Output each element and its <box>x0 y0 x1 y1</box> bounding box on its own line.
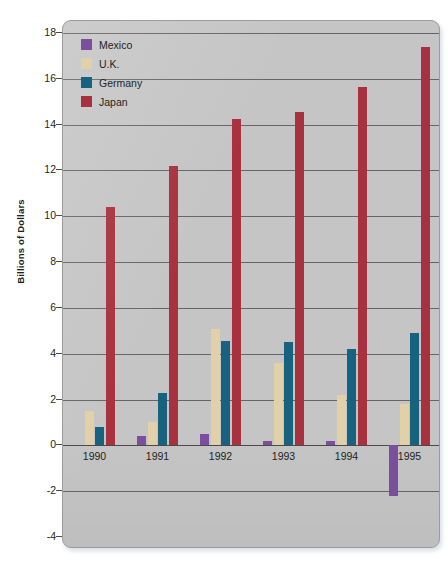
bar-japan-1994 <box>358 87 367 446</box>
bar-mexico-1994 <box>326 441 335 446</box>
x-tick-label-1993: 1993 <box>272 450 295 462</box>
legend-swatch-icon <box>81 39 92 50</box>
gridline-0 <box>63 445 439 446</box>
y-tick-label: 8 <box>24 255 56 267</box>
bar-uk-1993 <box>274 363 283 445</box>
gridline-4 <box>63 354 439 355</box>
bar-uk-1990 <box>85 411 94 445</box>
y-tick-label: 4 <box>24 347 56 359</box>
y-tick-label: 12 <box>24 163 56 175</box>
bar-uk-1995 <box>400 404 409 445</box>
legend-item-mexico: Mexico <box>81 35 142 54</box>
x-tick-label-1991: 1991 <box>146 450 169 462</box>
x-tick-label-1994: 1994 <box>335 450 358 462</box>
bar-japan-1990 <box>106 207 115 445</box>
bar-mexico-1991 <box>137 436 146 445</box>
y-tick-label: 14 <box>24 118 56 130</box>
gridline--2 <box>63 491 439 492</box>
y-tick-label: 16 <box>24 72 56 84</box>
bar-mexico-1993 <box>263 441 272 446</box>
x-tick-label-1990: 1990 <box>83 450 106 462</box>
legend-item-japan: Japan <box>81 92 142 111</box>
gridline-12 <box>63 170 439 171</box>
bar-germany-1993 <box>284 342 293 445</box>
bar-germany-1990 <box>95 427 104 445</box>
bar-uk-1994 <box>337 395 346 445</box>
legend-swatch-icon <box>81 58 92 69</box>
gridline-18 <box>63 33 439 34</box>
bar-japan-1995 <box>421 47 430 446</box>
y-tick-label: 2 <box>24 393 56 405</box>
x-tick-label-1995: 1995 <box>398 450 421 462</box>
y-tick-label: -2 <box>24 484 56 496</box>
bar-germany-1994 <box>347 349 356 445</box>
bar-uk-1992 <box>211 329 220 446</box>
plot-area: 199019911992199319941995 MexicoU.K.Germa… <box>62 20 440 548</box>
bar-germany-1995 <box>410 333 419 445</box>
bar-japan-1991 <box>169 166 178 445</box>
y-tick-label: -4 <box>24 530 56 542</box>
gridline-8 <box>63 262 439 263</box>
legend-swatch-icon <box>81 77 92 88</box>
legend: MexicoU.K.GermanyJapan <box>81 35 142 111</box>
y-tick-label: 0 <box>24 438 56 450</box>
gridline-6 <box>63 308 439 309</box>
bar-germany-1992 <box>221 341 230 445</box>
legend-item-germany: Germany <box>81 73 142 92</box>
legend-label: Mexico <box>99 39 132 51</box>
gridline-10 <box>63 216 439 217</box>
gridline-14 <box>63 125 439 126</box>
bar-chart: Billions of Dollars 181614121086420-2-4 … <box>0 0 448 581</box>
y-tick-label: 10 <box>24 209 56 221</box>
bar-germany-1991 <box>158 393 167 446</box>
legend-item-uk: U.K. <box>81 54 142 73</box>
legend-swatch-icon <box>81 96 92 107</box>
x-tick-label-1992: 1992 <box>209 450 232 462</box>
plot-inner: 199019911992199319941995 MexicoU.K.Germa… <box>63 21 439 547</box>
y-tick-label: 6 <box>24 301 56 313</box>
y-axis-title: Billions of Dollars <box>15 182 26 302</box>
legend-label: U.K. <box>99 58 119 70</box>
bar-japan-1992 <box>232 119 241 445</box>
bar-japan-1993 <box>295 112 304 445</box>
y-tick-label: 18 <box>24 26 56 38</box>
legend-label: Japan <box>99 96 128 108</box>
legend-label: Germany <box>99 77 142 89</box>
bar-mexico-1992 <box>200 434 209 445</box>
bar-uk-1991 <box>148 422 157 445</box>
gridline-2 <box>63 400 439 401</box>
